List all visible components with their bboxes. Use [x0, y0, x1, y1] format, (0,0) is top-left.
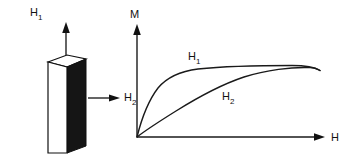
slab-front-face	[48, 62, 67, 153]
h2-specimen-label-subscript: 2	[132, 98, 137, 107]
x-axis-arrow-head-icon	[314, 133, 325, 141]
curve-h1-annotation-subscript: 1	[196, 57, 201, 66]
h2-specimen-label: H 2	[124, 91, 137, 107]
h1-arrow-head-icon	[62, 22, 70, 33]
specimen-diagram: H 1 H 2	[30, 6, 137, 153]
x-axis: H	[137, 131, 339, 143]
figure-canvas: H 1 H 2	[0, 0, 344, 167]
curve-h2-annotation-subscript: 2	[230, 97, 235, 106]
figure-root: H 1 H 2	[0, 0, 344, 167]
y-axis-label: M	[130, 8, 139, 20]
h1-specimen-label-subscript: 1	[38, 13, 43, 22]
curve-h1-annotation: H 1	[188, 50, 201, 66]
y-axis-arrow-head-icon	[133, 24, 141, 35]
curve-h2	[137, 67, 320, 137]
curve-h1-annotation-main: H	[188, 50, 196, 62]
y-axis: M	[130, 8, 141, 137]
h1-specimen-label-main: H	[30, 6, 38, 18]
h1-specimen-label: H 1	[30, 6, 43, 22]
curve-h2-annotation-main: H	[222, 90, 230, 102]
slab-side-face	[67, 59, 86, 153]
h2-arrow-head-icon	[109, 94, 120, 101]
curve-h2-annotation: H 2	[222, 90, 235, 106]
magnetization-chart: M H H 1 H 2	[130, 8, 339, 143]
h2-specimen-label-main: H	[124, 91, 132, 103]
h2-field-arrow	[88, 94, 120, 101]
x-axis-label: H	[331, 131, 339, 143]
